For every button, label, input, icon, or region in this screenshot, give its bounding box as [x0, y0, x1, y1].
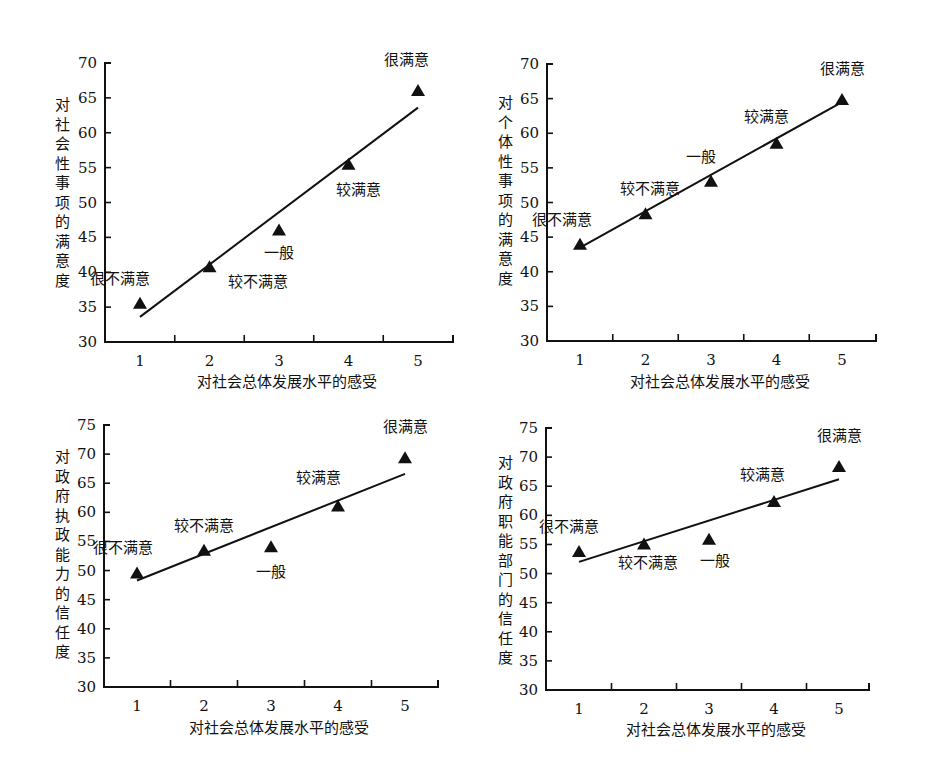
triangle-marker: [398, 451, 412, 463]
x-tick-label: 2: [641, 351, 651, 369]
y-tick-label: 50: [78, 194, 97, 212]
x-tick-label: 3: [274, 352, 284, 370]
point-label: 较不满意: [228, 273, 288, 291]
y-tick-label: 55: [519, 535, 538, 553]
trend-line: [579, 479, 839, 562]
point-label: 一般: [264, 244, 294, 262]
x-tick-label: 1: [135, 352, 145, 370]
x-tick-label: 4: [344, 352, 354, 370]
y-tick-label: 70: [520, 55, 539, 73]
point-label: 一般: [256, 563, 286, 581]
y-tick-label: 40: [519, 623, 538, 641]
chart-canvas: 30354045505560657012345对社会总体发展水平的感受对社会性事…: [0, 0, 935, 782]
point-label: 很不满意: [539, 518, 599, 536]
x-tick-label: 2: [205, 352, 215, 370]
triangle-marker: [133, 297, 147, 309]
x-tick-label: 3: [266, 697, 276, 715]
point-label: 很不满意: [90, 270, 150, 288]
y-tick-label: 65: [78, 89, 97, 107]
y-tick-label: 45: [77, 591, 96, 609]
y-tick-label: 70: [78, 54, 97, 72]
point-label: 较不满意: [618, 554, 678, 572]
y-tick-label: 30: [77, 678, 96, 696]
y-tick-label: 65: [519, 477, 538, 495]
chart-panel-individual-affairs-satisfaction: 30354045505560657012345对社会总体发展水平的感受对个体性事…: [498, 55, 877, 391]
chart-figure: 30354045505560657012345对社会总体发展水平的感受对社会性事…: [0, 0, 935, 782]
y-tick-label: 75: [77, 416, 96, 434]
triangle-marker: [832, 460, 846, 472]
x-tick-label: 2: [639, 700, 649, 718]
y-tick-label: 60: [520, 124, 539, 142]
x-axis-title: 对社会总体发展水平的感受: [197, 373, 377, 391]
point-label: 较满意: [744, 108, 789, 126]
point-label: 较满意: [740, 466, 785, 484]
point-label: 很满意: [820, 60, 865, 78]
y-tick-label: 60: [77, 503, 96, 521]
y-tick-label: 40: [520, 263, 539, 281]
x-tick-label: 1: [574, 700, 584, 718]
y-tick-label: 30: [520, 332, 539, 350]
triangle-marker: [411, 84, 425, 96]
y-tick-label: 60: [78, 124, 97, 142]
x-axis-title: 对社会总体发展水平的感受: [189, 719, 369, 737]
x-tick-label: 5: [834, 700, 844, 718]
triangle-marker: [702, 533, 716, 545]
point-label: 较不满意: [620, 180, 680, 198]
triangle-marker: [264, 540, 278, 552]
point-label: 一般: [700, 552, 730, 570]
x-tick-label: 5: [400, 697, 410, 715]
point-label: 较满意: [336, 181, 381, 199]
y-tick-label: 35: [520, 297, 539, 315]
chart-panel-social-affairs-satisfaction: 30354045505560657012345对社会总体发展水平的感受对社会性事…: [55, 51, 454, 391]
chart-panel-government-governance-trust: 3035404550556065707512345对社会总体发展水平的感受对政府…: [55, 416, 439, 737]
y-axis-title: 对政府执政能力的信任度: [55, 448, 70, 661]
triangle-marker: [572, 545, 586, 557]
y-tick-label: 70: [77, 445, 96, 463]
triangle-marker: [835, 93, 849, 105]
x-tick-label: 1: [132, 697, 142, 715]
y-tick-label: 35: [78, 298, 97, 316]
point-label: 很不满意: [532, 211, 592, 229]
triangle-marker: [197, 544, 211, 556]
point-label: 较不满意: [174, 517, 234, 535]
point-label: 一般: [686, 148, 716, 166]
y-tick-label: 55: [520, 159, 539, 177]
axes-frame: [547, 64, 876, 341]
y-tick-label: 40: [77, 620, 96, 638]
y-tick-label: 60: [519, 506, 538, 524]
point-label: 很满意: [384, 51, 429, 69]
triangle-marker: [203, 260, 217, 272]
y-tick-label: 65: [77, 474, 96, 492]
triangle-marker: [770, 137, 784, 149]
y-axis-title: 对社会性事项的满意度: [55, 96, 70, 290]
y-tick-label: 65: [520, 90, 539, 108]
y-axis-title: 对政府职能部门的信任度: [498, 454, 513, 667]
x-tick-label: 3: [706, 351, 716, 369]
y-axis-title: 对个体性事项的满意度: [498, 94, 513, 288]
point-label: 较满意: [296, 469, 341, 487]
chart-panel-government-departments-trust: 3035404550556065707512345对社会总体发展水平的感受对政府…: [498, 419, 870, 739]
y-tick-label: 45: [520, 228, 539, 246]
axes-frame: [104, 425, 438, 687]
x-tick-label: 2: [199, 697, 209, 715]
y-tick-label: 50: [77, 562, 96, 580]
y-tick-label: 35: [77, 649, 96, 667]
x-tick-label: 4: [772, 351, 782, 369]
point-label: 很满意: [383, 418, 428, 436]
point-label: 很满意: [817, 427, 862, 445]
triangle-marker: [130, 566, 144, 578]
y-tick-label: 35: [519, 652, 538, 670]
y-tick-label: 45: [519, 594, 538, 612]
point-label: 很不满意: [93, 539, 153, 557]
y-tick-label: 70: [519, 448, 538, 466]
x-tick-label: 1: [575, 351, 585, 369]
x-tick-label: 4: [769, 700, 779, 718]
x-tick-label: 5: [413, 352, 423, 370]
x-axis-title: 对社会总体发展水平的感受: [630, 373, 810, 391]
y-tick-label: 45: [78, 228, 97, 246]
y-tick-label: 50: [520, 194, 539, 212]
x-tick-label: 5: [837, 351, 847, 369]
axes-frame: [105, 63, 453, 342]
y-tick-label: 30: [519, 681, 538, 699]
y-tick-label: 30: [78, 333, 97, 351]
